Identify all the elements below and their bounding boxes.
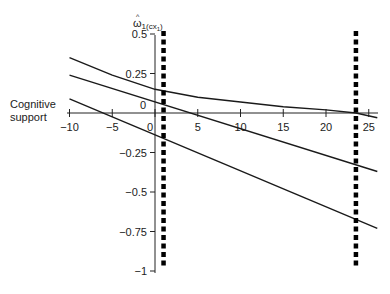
side-label-line1: Cognitive (10, 98, 56, 110)
y-ticks: 0.50.250−0.25−0.5−0.75−1 (119, 28, 155, 277)
x-tick-label: 15 (277, 121, 289, 133)
x-tick-label: −10 (60, 121, 79, 133)
y-tick-label: −0.75 (119, 226, 147, 238)
chart-canvas: −10−50510152025 0.50.250−0.25−0.5−0.75−1… (0, 0, 390, 294)
x-tick-label: 25 (363, 121, 375, 133)
vertical-markers (164, 31, 356, 267)
y-tick-label: −0.5 (125, 186, 147, 198)
y-tick-label: −1 (134, 265, 147, 277)
axes (67, 35, 378, 273)
series-line-upper (70, 58, 378, 118)
y-tick-label: 0.25 (126, 68, 147, 80)
x-tick-label: 20 (320, 121, 332, 133)
x-tick-label: −5 (106, 121, 119, 133)
y-tick-label: 0 (140, 99, 146, 111)
series-line-lower (70, 99, 378, 229)
data-series (70, 58, 378, 229)
side-label-line2: support (10, 111, 47, 123)
y-tick-label: −0.25 (119, 147, 147, 159)
x-tick-label: 5 (195, 121, 201, 133)
